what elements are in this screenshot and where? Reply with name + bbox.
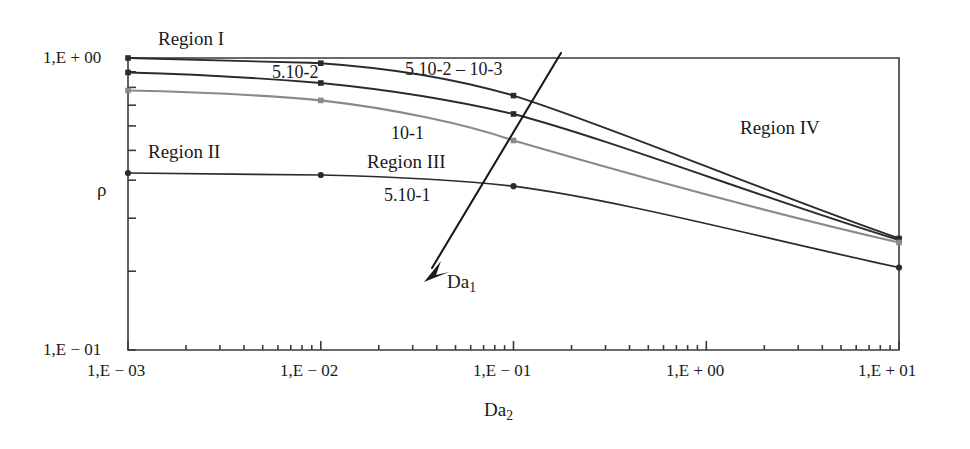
- axis-frame: [128, 58, 899, 350]
- data-marker: [511, 111, 517, 117]
- annotation-region-iii: Region III: [367, 152, 446, 171]
- x-axis-title-sub: 2: [506, 408, 513, 423]
- annotation-curve-5e2: 5.10-2: [272, 63, 319, 81]
- data-marker: [125, 88, 131, 94]
- x-tick-label-4: 1,E + 00: [666, 362, 724, 379]
- data-marker: [511, 138, 517, 144]
- data-marker: [318, 172, 324, 178]
- series-line-5e1: [125, 170, 902, 271]
- data-marker: [318, 80, 324, 86]
- x-axis-ticks: [128, 341, 899, 350]
- data-marker: [125, 170, 131, 176]
- data-marker: [125, 55, 131, 61]
- x-tick-label-2: 1,E − 02: [280, 362, 338, 379]
- annotation-region-i: Region I: [158, 29, 224, 48]
- data-marker: [511, 93, 517, 99]
- annotation-region-iv: Region IV: [740, 118, 820, 137]
- data-marker: [510, 183, 516, 189]
- data-marker: [125, 70, 131, 76]
- data-marker: [896, 240, 902, 246]
- chart-figure: 1,E + 00 1,E − 01 ρ 1,E − 03 1,E − 02 1,…: [0, 0, 970, 449]
- annotation-region-ii: Region II: [148, 142, 220, 161]
- annotation-curve-5e2-1e3: 5.10-2 – 10-3: [405, 60, 503, 78]
- annotation-curve-1e1: 10-1: [391, 124, 424, 142]
- data-marker: [318, 60, 324, 66]
- y-tick-label-top: 1,E + 00: [43, 49, 101, 66]
- y-axis-minor-ticks: [128, 58, 136, 350]
- y-tick-label-bottom: 1,E − 01: [43, 341, 101, 358]
- x-axis-title-base: Da: [484, 399, 506, 420]
- da1-label-sub: 1: [469, 280, 476, 295]
- data-marker: [318, 98, 324, 104]
- annotation-curve-5e1: 5.10-1: [384, 186, 431, 204]
- x-tick-label-1: 1,E − 03: [87, 362, 145, 379]
- series-line-5e2-1e3: [125, 55, 902, 241]
- da1-label-base: Da: [447, 271, 469, 292]
- data-marker: [896, 264, 902, 270]
- annotation-da1-label: Da1: [447, 272, 476, 295]
- x-tick-label-3: 1,E − 01: [473, 362, 531, 379]
- x-axis-title: Da2: [484, 400, 513, 423]
- x-tick-label-5: 1,E + 01: [858, 362, 916, 379]
- y-axis-title: ρ: [97, 180, 106, 199]
